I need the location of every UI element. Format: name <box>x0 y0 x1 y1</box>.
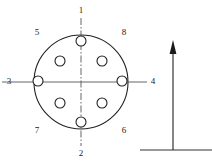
hole-1 <box>76 36 86 46</box>
hole-4 <box>117 76 127 86</box>
hole-label-5: 5 <box>35 27 40 37</box>
hole-8 <box>97 56 107 66</box>
hole-3 <box>33 76 43 86</box>
hole-5 <box>55 56 65 66</box>
hole-label-8: 8 <box>122 27 127 37</box>
hole-label-1: 1 <box>79 5 84 15</box>
hole-label-7: 7 <box>35 125 40 135</box>
hole-label-4: 4 <box>151 76 156 86</box>
hole-label-3: 3 <box>7 76 12 86</box>
direction-arrow-head <box>170 40 177 54</box>
hole-2 <box>76 117 86 127</box>
hole-7 <box>55 98 65 108</box>
figure-canvas: 1 2 3 4 5 6 7 8 <box>0 0 212 166</box>
hole-6 <box>97 98 107 108</box>
hole-label-6: 6 <box>122 125 127 135</box>
bolt-circle-diagram: 1 2 3 4 5 6 7 8 <box>0 0 212 166</box>
hole-label-2: 2 <box>79 148 84 158</box>
